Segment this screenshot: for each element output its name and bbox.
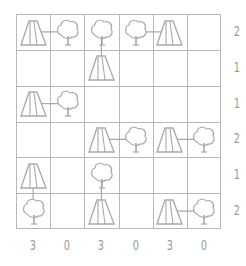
tent-icon [85,194,119,230]
cell-r3-c3-tree[interactable] [119,122,152,157]
cell-r0-c0-tent[interactable] [17,15,50,50]
cell-r2-c2-empty[interactable] [85,86,118,121]
tent-icon [153,15,187,51]
column-clue: 3 [158,237,182,253]
cell-r1-c2-tent[interactable] [85,50,118,85]
cell-r0-c5-empty[interactable] [187,15,220,50]
tree-icon [187,122,221,158]
cell-r2-c3-empty[interactable] [119,86,152,121]
cell-r3-c4-tent[interactable] [153,122,186,157]
column-clue: 0 [124,237,148,253]
cell-r0-c2-tree[interactable] [85,15,118,50]
row-clue: 1 [232,166,242,182]
column-clue: 3 [89,237,113,253]
column-clue: 0 [55,237,79,253]
row-clue: 1 [232,59,242,75]
tree-icon [119,15,153,51]
cell-r1-c5-empty[interactable] [187,50,220,85]
cell-r5-c4-tent[interactable] [153,194,186,229]
cell-r2-c5-empty[interactable] [187,86,220,121]
cell-r1-c3-empty[interactable] [119,50,152,85]
cell-r2-c1-tree[interactable] [51,86,84,121]
tent-icon [153,194,187,230]
cell-r4-c2-tree[interactable] [85,158,118,193]
tree-icon [17,194,51,230]
cell-r1-c4-empty[interactable] [153,50,186,85]
cell-r4-c3-empty[interactable] [119,158,152,193]
tree-icon [85,15,119,51]
cell-r5-c5-tree[interactable] [187,194,220,229]
cell-r0-c3-tree[interactable] [119,15,152,50]
row-clue: 2 [232,202,242,218]
tent-icon [17,158,51,194]
cell-r3-c0-empty[interactable] [17,122,50,157]
tent-icon [17,15,51,51]
tent-icon [85,122,119,158]
row-clue: 2 [232,23,242,39]
row-clue: 1 [232,95,242,111]
cell-r5-c1-empty[interactable] [51,194,84,229]
column-clue: 0 [192,237,216,253]
tent-icon [153,122,187,158]
cell-r5-c0-tree[interactable] [17,194,50,229]
cell-r4-c4-empty[interactable] [153,158,186,193]
cell-r2-c0-tent[interactable] [17,86,50,121]
cell-r5-c3-empty[interactable] [119,194,152,229]
tent-icon [17,86,51,122]
cell-r0-c4-tent[interactable] [153,15,186,50]
cell-r1-c1-empty[interactable] [51,50,84,85]
cell-r1-c0-empty[interactable] [17,50,50,85]
cell-r3-c1-empty[interactable] [51,122,84,157]
row-clue: 2 [232,130,242,146]
tree-icon [51,86,85,122]
cell-r0-c1-tree[interactable] [51,15,84,50]
tree-icon [85,158,119,194]
cell-r5-c2-tent[interactable] [85,194,118,229]
cell-r3-c5-tree[interactable] [187,122,220,157]
cell-r2-c4-empty[interactable] [153,86,186,121]
cell-r4-c5-empty[interactable] [187,158,220,193]
tree-icon [119,122,153,158]
tree-icon [51,15,85,51]
column-clue: 3 [21,237,45,253]
cell-r4-c0-tent[interactable] [17,158,50,193]
cell-r4-c1-empty[interactable] [51,158,84,193]
puzzle-grid [16,14,221,229]
tree-icon [187,194,221,230]
cell-r3-c2-tent[interactable] [85,122,118,157]
tent-icon [85,50,119,86]
